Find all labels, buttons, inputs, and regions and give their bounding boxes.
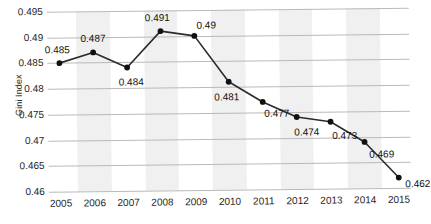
y-tick-0.48: 0.48: [0, 83, 44, 94]
point-label-2007: 0.484: [119, 76, 144, 87]
point-label-2011: 0.477: [264, 107, 289, 118]
y-tick-0.495: 0.495: [0, 6, 43, 17]
plot-area: 0.4850.4870.4840.4910.490.4810.4770.4740…: [47, 8, 411, 192]
data-point-2005: [57, 60, 63, 66]
point-label-2015: 0.462: [405, 178, 430, 189]
point-label-2014: 0.469: [369, 148, 394, 159]
y-axis-tick-labels: 0.4950.490.4850.480.4750.470.4650.46: [0, 12, 45, 192]
x-axis-tick-labels: 2005200620072008200920102011201220132014…: [49, 194, 411, 216]
x-tick-2015: 2015: [379, 194, 419, 205]
y-tick-0.475: 0.475: [0, 109, 44, 120]
y-tick-0.465: 0.465: [1, 160, 45, 171]
point-label-2006: 0.487: [80, 33, 105, 44]
y-tick-0.485: 0.485: [0, 57, 44, 68]
point-label-2008: 0.491: [145, 12, 170, 23]
y-tick-0.46: 0.46: [1, 186, 45, 197]
chart-skew-layer: Gini Index 0.4950.490.4850.480.4750.470.…: [0, 0, 419, 224]
data-point-2012: [294, 114, 300, 120]
point-label-2009: 0.49: [196, 19, 216, 30]
point-label-2013: 0.473: [332, 130, 357, 141]
y-tick-0.47: 0.47: [0, 134, 44, 145]
data-point-2006: [90, 50, 96, 56]
y-tick-0.49: 0.49: [0, 32, 43, 43]
point-label-2005: 0.485: [45, 44, 70, 55]
point-label-2010: 0.481: [214, 91, 239, 102]
point-label-2012: 0.474: [294, 126, 319, 137]
